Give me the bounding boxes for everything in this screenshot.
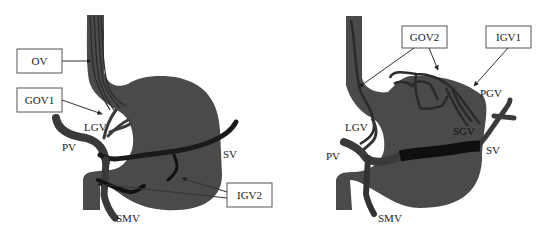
label-sgv-right: SGV [453, 125, 475, 137]
gastric-varices-diagram: OV GOV1 IGV2 LGV PV SV SMV [0, 0, 543, 234]
box-gov2-label: GOV2 [410, 31, 439, 43]
label-sv-left: SV [223, 148, 237, 160]
label-lgv-left: LGV [84, 121, 107, 133]
box-igv1-label: IGV1 [496, 31, 521, 43]
label-smv-left: SMV [116, 212, 140, 224]
label-sv-right: SV [486, 144, 500, 156]
label-pgv-right: PGV [480, 87, 502, 99]
label-pv-right: PV [326, 150, 340, 162]
box-igv1: IGV1 [474, 26, 531, 86]
box-ov: OV [17, 49, 91, 73]
label-lgv-right: LGV [345, 121, 368, 133]
box-gov1: GOV1 [17, 88, 102, 114]
box-gov1-label: GOV1 [25, 94, 54, 106]
left-panel: OV GOV1 IGV2 LGV PV SV SMV [17, 15, 272, 224]
label-smv-right: SMV [378, 212, 402, 224]
right-panel: GOV2 IGV1 LGV PV SV SMV PGV SGV [326, 16, 531, 224]
box-igv2-label: IGV2 [237, 189, 262, 201]
pgv-branch [494, 116, 514, 118]
box-ov-label: OV [32, 55, 48, 67]
label-pv-left: PV [62, 141, 76, 153]
